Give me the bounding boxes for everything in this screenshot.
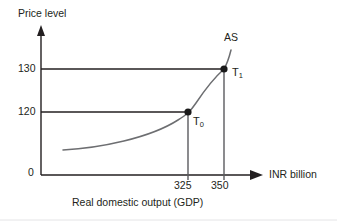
x-axis-arrowhead <box>250 170 263 180</box>
point-label-t1-subscript: 1 <box>239 71 243 80</box>
x-tick-label-350: 350 <box>211 180 229 191</box>
point-label-t0-base: T <box>193 115 200 127</box>
as-curve-label: AS <box>224 32 238 43</box>
point-label-t0-subscript: 0 <box>200 120 204 129</box>
y-axis-title: Price level <box>18 8 66 19</box>
x-axis-unit-label: INR billion <box>269 169 317 180</box>
origin-label: 0 <box>28 167 34 178</box>
x-axis-title: Real domestic output (GDP) <box>72 197 203 208</box>
y-tick-label-130: 130 <box>18 63 36 74</box>
y-tick-label-120: 120 <box>18 106 36 117</box>
point-label-t1-base: T <box>232 66 239 78</box>
x-tick-label-325: 325 <box>174 180 192 191</box>
point-marker-t1 <box>220 65 227 72</box>
point-label-t1: T1 <box>232 67 243 78</box>
point-marker-t0 <box>184 108 191 115</box>
as-curve-path <box>63 50 231 150</box>
chart-canvas <box>0 0 337 224</box>
point-label-t0: T0 <box>193 116 204 127</box>
y-axis-arrowhead <box>37 25 45 36</box>
aggregate-supply-chart: Price level INR billion Real domestic ou… <box>0 0 337 224</box>
